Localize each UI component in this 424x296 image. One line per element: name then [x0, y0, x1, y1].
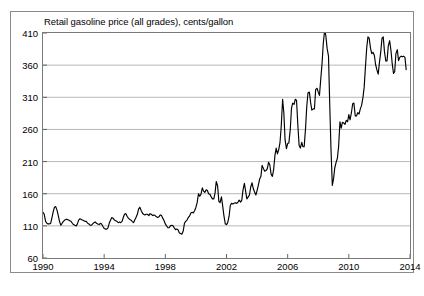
gridlines [43, 65, 410, 226]
x-tick-2014: 2014 [390, 261, 424, 272]
y-tick-210: 210 [14, 156, 38, 167]
x-tick-marks [43, 254, 410, 258]
y-tick-410: 410 [14, 28, 38, 39]
x-tick-1994: 1994 [84, 261, 124, 272]
chart-canvas [43, 33, 410, 258]
y-tick-360: 360 [14, 60, 38, 71]
data-series-line [43, 33, 406, 234]
y-tick-marks [43, 33, 47, 258]
y-tick-160: 160 [14, 188, 38, 199]
y-tick-260: 260 [14, 124, 38, 135]
y-tick-310: 310 [14, 92, 38, 103]
x-axis-tick-labels: 1990199419982002200620102014 [42, 261, 411, 275]
y-tick-110: 110 [14, 220, 38, 231]
x-tick-1990: 1990 [23, 261, 63, 272]
y-axis-tick-labels: 60110160210260310360410 [11, 32, 38, 259]
x-tick-2010: 2010 [329, 261, 369, 272]
plot-wrapper [42, 32, 411, 259]
plot-area [42, 32, 411, 259]
x-tick-2002: 2002 [207, 261, 247, 272]
chart-figure: Retail gasoline price (all grades), cent… [10, 11, 414, 273]
chart-title: Retail gasoline price (all grades), cent… [44, 16, 233, 27]
x-tick-1998: 1998 [145, 261, 185, 272]
x-tick-2006: 2006 [268, 261, 308, 272]
